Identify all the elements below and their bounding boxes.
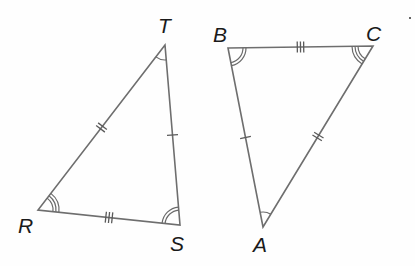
angle-arc-r [47,198,53,211]
angle-arc-t [156,57,166,60]
congruence-tick-mark [112,212,113,223]
vertex-label-c: C [366,22,382,45]
congruence-tick-mark [167,135,178,136]
vertex-label-r: R [18,214,33,237]
angle-arc-b [231,48,246,66]
vertex-label-b: B [213,23,227,46]
congruent-triangles-diagram: T R S B C A [0,0,415,266]
stray-mark [409,17,411,19]
diagram-svg: T R S B C A [0,0,415,266]
vertex-label-t: T [158,14,173,37]
angle-arc-s [162,207,178,223]
congruence-tick-mark [108,212,109,223]
triangle-outline [38,45,180,225]
angle-arc-a [260,212,271,214]
vertex-label-a: A [251,233,267,256]
congruence-tick-mark [105,212,106,223]
triangle-rst [38,45,180,225]
vertex-label-s: S [170,232,184,255]
triangle-abc [228,41,373,227]
